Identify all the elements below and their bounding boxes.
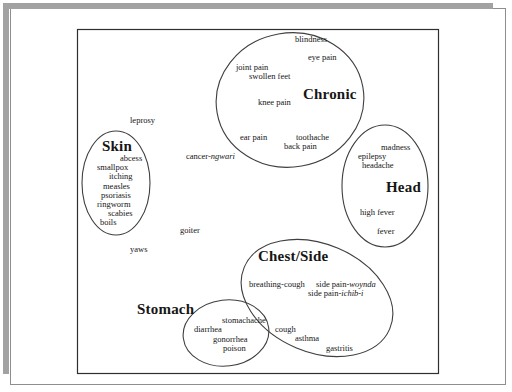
term-label: breathing-cough xyxy=(249,280,305,289)
term-label-text: cough xyxy=(275,324,296,334)
term-label-text: side pain- xyxy=(308,288,341,298)
term-label: itching xyxy=(109,172,133,181)
term-label-text: leprosy xyxy=(130,115,155,125)
cluster-label-chest-side-text: Chest/Side xyxy=(258,248,328,264)
term-label-text: boils xyxy=(100,217,117,227)
term-label: back pain xyxy=(284,142,317,151)
term-label: ear pain xyxy=(240,133,267,142)
term-label-text: cancer- xyxy=(186,151,211,161)
term-label-text: diarrhea xyxy=(194,324,222,334)
cluster-label-chest-side: Chest/Side xyxy=(258,249,328,264)
term-label: leprosy xyxy=(130,116,155,125)
cluster-label-chronic-text: Chronic xyxy=(303,86,357,102)
term-label: fever xyxy=(377,227,394,236)
term-label-text: goiter xyxy=(180,225,200,235)
cluster-label-chronic: Chronic xyxy=(303,87,357,102)
term-label: yaws xyxy=(130,245,147,254)
term-label: diarrhea xyxy=(194,325,222,334)
term-label-text: asthma xyxy=(295,333,319,343)
term-label-text: high fever xyxy=(360,207,395,217)
cluster-label-head: Head xyxy=(386,180,421,195)
term-label-text: itching xyxy=(109,171,133,181)
term-label-text: swollen feet xyxy=(249,71,290,81)
term-label-italic-text: ngwari xyxy=(211,151,235,161)
term-label-text: knee pain xyxy=(258,97,291,107)
term-label: side pain-ichib-i xyxy=(308,289,364,298)
cluster-label-stomach: Stomach xyxy=(137,302,194,317)
term-label: gastritis xyxy=(326,344,353,353)
cluster-label-stomach-text: Stomach xyxy=(137,301,194,317)
cluster-label-skin-text: Skin xyxy=(102,138,132,154)
term-label: blindness xyxy=(295,35,327,44)
terms-layer: Chronicblindnesseye painjoint painswolle… xyxy=(0,0,512,392)
term-label: swollen feet xyxy=(249,72,290,81)
term-label-text: back pain xyxy=(284,141,317,151)
term-label: poison xyxy=(223,344,246,353)
term-label-text: yaws xyxy=(130,244,147,254)
cluster-label-head-text: Head xyxy=(386,179,421,195)
figure-canvas: Chronicblindnesseye painjoint painswolle… xyxy=(0,0,512,392)
term-label: cough xyxy=(275,325,296,334)
term-label: headache xyxy=(362,161,394,170)
term-label: eye pain xyxy=(308,53,337,62)
term-label-text: gastritis xyxy=(326,343,353,353)
term-label: goiter xyxy=(180,226,200,235)
term-label: knee pain xyxy=(258,98,291,107)
term-label-text: ear pain xyxy=(240,132,267,142)
term-label: asthma xyxy=(295,334,319,343)
term-label-italic-text: ichib-i xyxy=(341,288,363,298)
term-label-text: headache xyxy=(362,160,394,170)
term-label: boils xyxy=(100,218,117,227)
term-label-text: fever xyxy=(377,226,394,236)
term-label: high fever xyxy=(360,208,395,217)
cluster-label-skin: Skin xyxy=(102,139,132,154)
term-label-text: stomachache xyxy=(222,315,266,325)
term-label-text: blindness xyxy=(295,34,327,44)
term-label-text: poison xyxy=(223,343,246,353)
term-label-text: breathing-cough xyxy=(249,279,305,289)
term-label: stomachache xyxy=(222,316,266,325)
term-label: cancer-ngwari xyxy=(186,152,235,161)
term-label-text: eye pain xyxy=(308,52,337,62)
